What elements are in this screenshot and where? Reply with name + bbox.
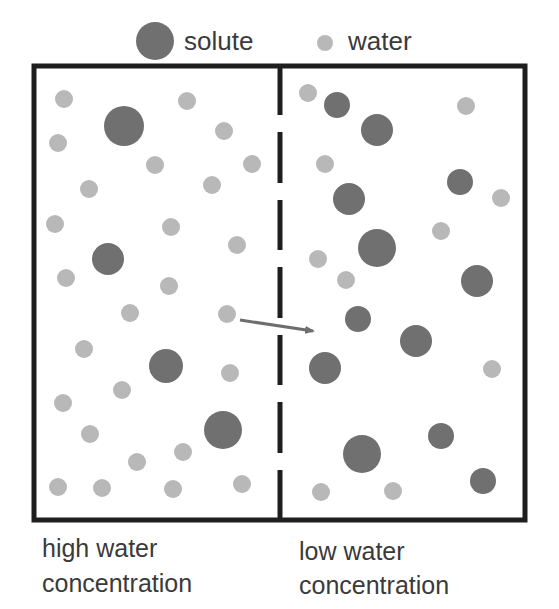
water-molecule-icon <box>312 483 330 501</box>
water-molecule-icon <box>228 236 246 254</box>
solute-molecule-icon <box>104 106 144 146</box>
solute-molecule-icon <box>470 468 496 494</box>
water-molecule-icon <box>93 479 111 497</box>
water-molecule-icon <box>54 394 72 412</box>
water-molecule-icon <box>55 90 73 108</box>
solute-molecule-icon <box>461 265 493 297</box>
right-label-line1: low water <box>299 537 405 565</box>
solute-molecule-icon <box>149 349 183 383</box>
water-molecule-icon <box>309 250 327 268</box>
water-molecule-icon <box>162 218 180 236</box>
water-molecule-icon <box>457 97 475 115</box>
solute-molecule-icon <box>400 325 432 357</box>
solute-molecule-icon <box>447 169 473 195</box>
water-molecule-icon <box>299 84 317 102</box>
water-molecule-icon <box>215 122 233 140</box>
water-molecule-icon <box>121 304 139 322</box>
solute-molecule-icon <box>309 352 341 384</box>
right-label-line2: concentration <box>299 571 449 599</box>
water-molecule-icon <box>49 478 67 496</box>
osmosis-diagram: solute water high water concentration lo… <box>0 0 559 609</box>
water-molecule-icon <box>178 92 196 110</box>
compartment-labels: high water concentration low water conce… <box>42 534 449 599</box>
water-molecule-icon <box>113 381 131 399</box>
legend-water-swatch-icon <box>317 35 333 51</box>
water-molecule-icon <box>81 425 99 443</box>
solute-molecule-icon <box>324 92 350 118</box>
legend-water-label: water <box>347 26 412 56</box>
water-molecule-icon <box>384 482 402 500</box>
water-molecule-icon <box>218 305 236 323</box>
water-molecule-icon <box>164 480 182 498</box>
right-compartment-particles <box>299 84 510 501</box>
water-molecule-icon <box>203 176 221 194</box>
water-molecule-icon <box>57 269 75 287</box>
solute-molecule-icon <box>204 411 242 449</box>
solute-molecule-icon <box>343 435 381 473</box>
water-molecule-icon <box>316 155 334 173</box>
water-molecule-icon <box>160 277 178 295</box>
water-molecule-icon <box>80 180 98 198</box>
solute-molecule-icon <box>428 423 454 449</box>
solute-molecule-icon <box>358 229 396 267</box>
water-molecule-icon <box>221 364 239 382</box>
water-molecule-icon <box>432 222 450 240</box>
legend: solute water <box>136 22 412 60</box>
left-compartment-particles <box>46 90 261 498</box>
water-molecule-icon <box>174 443 192 461</box>
water-molecule-icon <box>46 215 64 233</box>
solute-molecule-icon <box>361 114 393 146</box>
left-label-line2: concentration <box>42 569 192 597</box>
solute-molecule-icon <box>333 183 365 215</box>
water-molecule-icon <box>492 189 510 207</box>
water-molecule-icon <box>233 475 251 493</box>
water-molecule-icon <box>49 134 67 152</box>
water-molecule-icon <box>337 271 355 289</box>
water-molecule-icon <box>146 156 164 174</box>
left-label-line1: high water <box>42 534 157 562</box>
solute-molecule-icon <box>345 306 371 332</box>
legend-solute-label: solute <box>184 26 253 56</box>
water-flow-arrow-icon <box>240 320 313 331</box>
solute-molecule-icon <box>92 243 124 275</box>
water-molecule-icon <box>483 360 501 378</box>
legend-solute-swatch-icon <box>136 22 174 60</box>
water-molecule-icon <box>75 340 93 358</box>
water-molecule-icon <box>243 155 261 173</box>
water-molecule-icon <box>128 453 146 471</box>
